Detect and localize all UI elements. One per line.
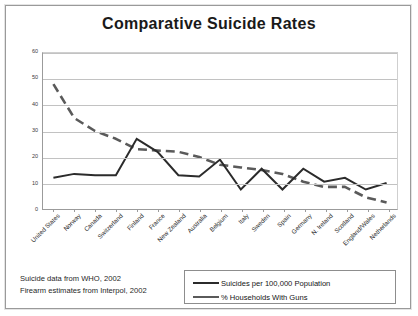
legend-item-suicides: Suicides per 100,000 Population <box>193 276 330 290</box>
footnote-line-2: Firearm estimates from Interpol, 2002 <box>20 285 147 297</box>
gridline <box>43 79 397 80</box>
x-tick-label: Italy <box>237 212 250 225</box>
gridline <box>43 105 397 106</box>
footnote-line-1: Suicide data from WHO, 2002 <box>20 273 147 285</box>
gridline <box>43 158 397 159</box>
gridline <box>43 132 397 133</box>
legend-label-suicides: Suicides per 100,000 Population <box>221 279 330 288</box>
x-tick-label: Norway <box>62 212 82 232</box>
footnote: Suicide data from WHO, 2002 Firearm esti… <box>20 273 147 297</box>
y-tick-label: 10 <box>14 181 38 187</box>
legend-swatch-solid <box>193 282 219 284</box>
plot-area <box>42 52 398 210</box>
y-tick-label: 50 <box>14 75 38 81</box>
chart-title: Comparative Suicide Rates <box>6 15 412 33</box>
y-tick-label: 20 <box>14 154 38 160</box>
x-tick-label: Spain <box>275 212 291 228</box>
chart-frame: Comparative Suicide Rates United StatesN… <box>5 5 411 309</box>
legend: Suicides per 100,000 Population % Househ… <box>184 270 396 304</box>
legend-item-guns: % Households With Guns <box>193 290 308 304</box>
x-tick-label: Finland <box>126 212 146 232</box>
x-tick-label: France <box>147 212 166 231</box>
y-tick-label: 30 <box>14 128 38 134</box>
x-tick-label: United States <box>30 212 62 244</box>
y-tick-label: 60 <box>14 49 38 55</box>
gridline <box>43 53 397 54</box>
y-tick-label: 0 <box>14 207 38 213</box>
y-tick-label: 40 <box>14 102 38 108</box>
x-tick-label: N. Ireland <box>309 212 333 236</box>
x-tick-label: Sweden <box>250 212 271 233</box>
x-tick-label: Australia <box>186 212 208 234</box>
x-tick-label: Belgium <box>208 212 229 233</box>
gridline <box>43 184 397 185</box>
legend-label-guns: % Households With Guns <box>221 293 308 302</box>
x-axis-labels: United StatesNorwayCanadaSwitzerlandFinl… <box>42 212 398 266</box>
legend-swatch-dashed <box>193 296 219 298</box>
